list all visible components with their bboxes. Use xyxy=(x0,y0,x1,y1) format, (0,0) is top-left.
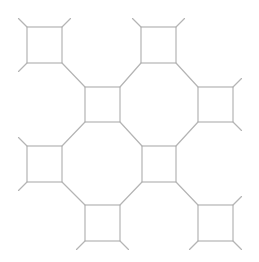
square-G xyxy=(142,146,176,182)
tail-H-tr xyxy=(233,197,241,205)
tail-C-tr xyxy=(176,19,184,27)
squares-group xyxy=(27,27,233,241)
connector-A-B xyxy=(62,63,85,87)
tail-H-br xyxy=(233,241,241,249)
tail-E-tl xyxy=(19,138,27,146)
connector-G-F xyxy=(120,182,142,205)
tail-D-br xyxy=(233,122,241,130)
square-E xyxy=(27,146,62,182)
tail-F-bl xyxy=(77,241,85,249)
connector-G-H xyxy=(176,182,198,205)
square-D xyxy=(198,87,233,122)
square-B xyxy=(85,87,120,122)
connector-E-F xyxy=(62,182,85,205)
square-F xyxy=(85,205,120,241)
square-C xyxy=(141,27,176,63)
tail-A-bl xyxy=(19,63,27,71)
tail-D-tr xyxy=(233,79,241,87)
connector-B-G xyxy=(120,122,142,146)
connector-lines-group xyxy=(19,19,242,250)
tail-F-br xyxy=(120,241,128,249)
tail-C-tl xyxy=(133,19,141,27)
tail-A-tl xyxy=(19,19,27,27)
tail-E-bl xyxy=(19,182,27,190)
connector-B-E xyxy=(62,122,85,146)
tiling-diagram xyxy=(0,0,259,262)
tail-A-tr xyxy=(62,19,70,27)
tail-H-bl xyxy=(190,241,198,249)
connector-C-B xyxy=(120,63,141,87)
connector-D-G xyxy=(176,122,198,146)
connector-C-D xyxy=(176,63,198,87)
square-H xyxy=(198,205,233,241)
square-A xyxy=(27,27,62,63)
